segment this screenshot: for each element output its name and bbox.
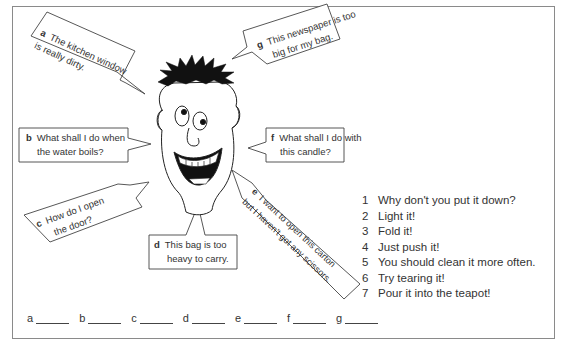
response-text: You should clean it more often. [378, 255, 536, 271]
bubble-letter: d [154, 239, 160, 250]
blank-letter: c [131, 312, 137, 324]
response-number: 4 [362, 240, 378, 256]
bubble-f: fWhat shall I do with this candle? [271, 131, 362, 159]
response-item: 7Pour it into the teapot! [362, 286, 536, 302]
bubble-b: bWhat shall I do when the water boils? [26, 131, 125, 159]
answer-blank-b[interactable]: b [79, 312, 121, 324]
bubble-line: This bag is too [165, 239, 227, 250]
blank-letter: g [336, 312, 342, 324]
answer-blank-d[interactable]: d [183, 312, 225, 324]
response-number: 3 [362, 224, 378, 240]
blank-line[interactable] [192, 314, 225, 324]
spiky-hair [158, 55, 234, 86]
response-text: Light it! [378, 209, 415, 225]
answer-blank-f[interactable]: f [287, 312, 326, 324]
response-item: 5You should clean it more often. [362, 255, 536, 271]
bubble-line: What shall I do when [37, 132, 125, 143]
answer-blanks: a b c d e f g [27, 312, 388, 324]
response-text: Pour it into the teapot! [378, 286, 491, 302]
response-number: 6 [362, 271, 378, 287]
blank-letter: d [183, 312, 189, 324]
answer-blank-e[interactable]: e [235, 312, 277, 324]
blank-line[interactable] [345, 314, 378, 324]
response-text: Why don't you put it down? [378, 193, 516, 209]
response-item: 3Fold it! [362, 224, 536, 240]
bubble-d: dThis bag is too heavy to carry. [154, 238, 229, 266]
response-item: 4Just push it! [362, 240, 536, 256]
blank-line[interactable] [36, 314, 69, 324]
bubble-line: the water boils? [37, 146, 104, 157]
bubble-line: heavy to carry. [167, 253, 229, 264]
blank-line[interactable] [140, 314, 173, 324]
cartoon-head [157, 82, 240, 215]
bubble-line: this candle? [280, 146, 331, 157]
blank-letter: b [79, 312, 85, 324]
response-item: 6Try tearing it! [362, 271, 536, 287]
response-number: 2 [362, 209, 378, 225]
responses-list: 1Why don't you put it down? 2Light it! 3… [362, 193, 536, 302]
response-number: 7 [362, 286, 378, 302]
blank-line[interactable] [244, 314, 277, 324]
answer-blank-a[interactable]: a [27, 312, 69, 324]
response-number: 5 [362, 255, 378, 271]
response-text: Try tearing it! [378, 271, 445, 287]
left-eye [175, 106, 189, 126]
blank-line[interactable] [293, 314, 326, 324]
blank-letter: e [235, 312, 241, 324]
answer-blank-g[interactable]: g [336, 312, 378, 324]
answer-blank-c[interactable]: c [131, 312, 173, 324]
response-item: 2Light it! [362, 209, 536, 225]
response-item: 1Why don't you put it down? [362, 193, 536, 209]
response-number: 1 [362, 193, 378, 209]
blank-line[interactable] [88, 314, 121, 324]
bubble-letter: b [26, 132, 32, 143]
response-text: Fold it! [378, 224, 413, 240]
blank-letter: a [27, 312, 33, 324]
bubble-letter: f [271, 132, 274, 143]
blank-letter: f [287, 312, 290, 324]
bubble-line: What shall I do with [279, 132, 361, 143]
face-outline [157, 82, 239, 215]
response-text: Just push it! [378, 240, 439, 256]
